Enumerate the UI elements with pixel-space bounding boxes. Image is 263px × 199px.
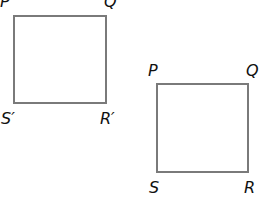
square-prime xyxy=(13,15,107,104)
label-q-prime: Q′ xyxy=(104,0,120,10)
label-p: P xyxy=(148,63,158,79)
label-s: S xyxy=(149,180,159,196)
label-p-prime: P′ xyxy=(0,0,13,10)
label-r-prime: R′ xyxy=(100,111,115,127)
label-r: R xyxy=(244,180,255,196)
label-q: Q xyxy=(246,63,259,79)
label-s-prime: S′ xyxy=(1,111,15,127)
square-original xyxy=(156,83,249,173)
